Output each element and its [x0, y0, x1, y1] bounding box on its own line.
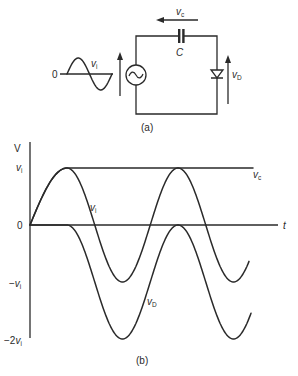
- vc-curve-label: vc: [253, 169, 262, 181]
- capacitor-icon: [178, 29, 185, 43]
- caption-a: (a): [141, 122, 153, 133]
- ytick-zero: 0: [17, 220, 23, 231]
- y-axis-label: V: [14, 143, 21, 154]
- diode-voltage-label: vD: [232, 69, 242, 81]
- circuit-schematic: 0 vi C vc: [52, 6, 242, 133]
- ac-source-icon: [126, 65, 146, 85]
- diode-icon: [211, 70, 223, 78]
- vd-curve-label: vD: [147, 296, 157, 308]
- vd-curve: [30, 225, 251, 339]
- source-voltage-arrow: [117, 52, 123, 96]
- diode-voltage-arrow: [225, 55, 231, 104]
- capacitor-voltage-label: vc: [176, 6, 185, 18]
- input-zero-label: 0: [52, 69, 58, 80]
- caption-b: (b): [136, 355, 148, 366]
- capacitor-label: C: [176, 47, 184, 58]
- ytick-neg-vi: −vi: [9, 278, 21, 290]
- capacitor-voltage-arrow: [156, 17, 198, 23]
- ytick-neg-2vi: −2vi: [4, 335, 22, 347]
- ytick-vi: vi: [16, 162, 22, 174]
- vi-curve-label: vi: [90, 202, 96, 214]
- input-waveform-sketch: 0 vi: [52, 58, 113, 90]
- clamper-diagram: 0 vi C vc: [0, 0, 298, 376]
- vc-curve: [30, 168, 253, 225]
- x-axis-label: t: [283, 220, 287, 231]
- waveform-plot: V t vi 0 −vi −2vi vc vi vD (b): [4, 142, 287, 366]
- input-vi-label: vi: [91, 58, 97, 70]
